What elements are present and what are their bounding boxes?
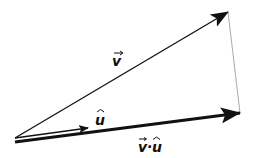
label-vdotu-u: u [152,139,162,155]
label-v-text: v [112,53,122,69]
vector-projection-diagram: v u v · u [0,0,253,158]
projection-line [228,12,240,113]
label-u-hat: u [95,110,105,129]
label-v: v [112,51,123,69]
label-u-text: u [95,112,105,128]
label-v-dot-u: v · u [138,137,162,155]
